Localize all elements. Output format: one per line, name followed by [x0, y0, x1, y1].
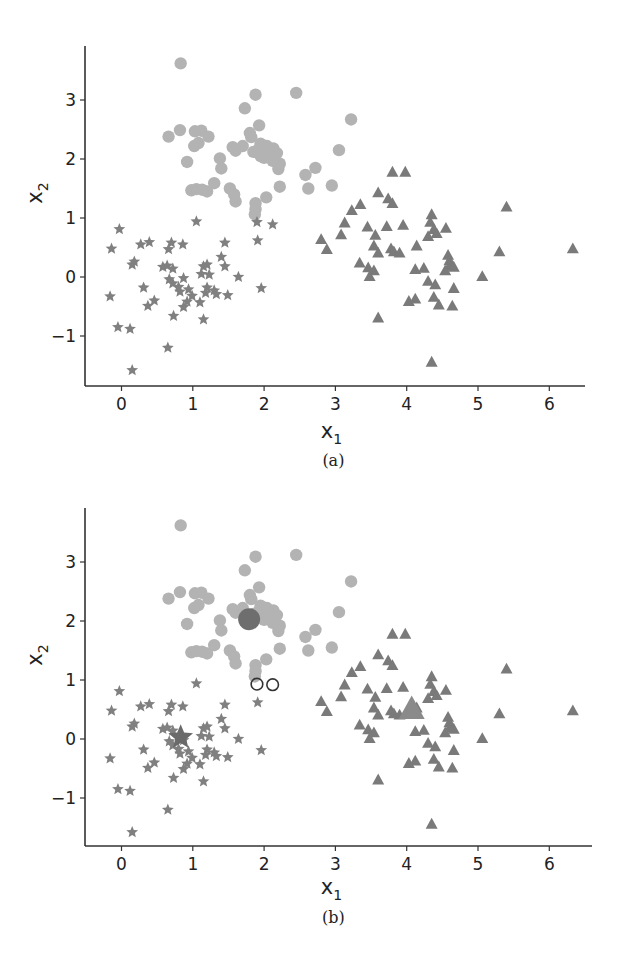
- circle-marker: [261, 602, 273, 614]
- scatter-plot-b: 0123456−10123x1x2(b): [0, 462, 626, 959]
- circle-marker: [192, 599, 204, 611]
- triangle-marker: [399, 166, 411, 177]
- circle-marker: [260, 191, 272, 203]
- star-marker: [233, 733, 245, 744]
- x-tick-label: 0: [116, 854, 127, 874]
- circle-marker: [192, 137, 204, 149]
- star-marker: [177, 238, 189, 249]
- series-cluster-circles: [162, 519, 357, 682]
- star-marker: [124, 323, 136, 334]
- triangle-marker: [361, 221, 373, 232]
- y-tick-label: 3: [65, 552, 76, 572]
- scatter-plot-a: 0123456−10123x1x2(a): [0, 0, 626, 470]
- triangle-marker: [399, 628, 411, 639]
- y-axis-label: x2: [23, 644, 51, 665]
- circle-marker: [162, 592, 174, 604]
- triangle-marker: [446, 300, 458, 311]
- triangle-marker: [354, 660, 366, 671]
- triangle-marker: [335, 690, 347, 701]
- circle-marker: [162, 130, 174, 142]
- circle-marker: [261, 140, 273, 152]
- circle-marker: [302, 644, 314, 656]
- circle-marker: [181, 618, 193, 630]
- star-marker: [222, 751, 234, 762]
- series-cluster-triangles: [315, 166, 579, 367]
- star-marker: [198, 775, 210, 786]
- triangle-marker: [476, 732, 488, 743]
- y-tick-label: −1: [51, 788, 76, 808]
- star-marker: [215, 251, 227, 262]
- x-tick-label: 1: [187, 854, 198, 874]
- circle-marker: [260, 653, 272, 665]
- star-marker: [168, 772, 180, 783]
- triangle-marker: [354, 257, 366, 268]
- star-marker: [135, 700, 147, 711]
- triangle-marker: [354, 719, 366, 730]
- star-marker: [138, 743, 150, 754]
- series-cluster-triangles: [315, 628, 579, 829]
- x-tick-label: 6: [544, 854, 555, 874]
- star-marker: [124, 785, 136, 796]
- star-marker: [190, 677, 202, 688]
- circle-marker: [290, 87, 302, 99]
- triangle-marker: [321, 705, 333, 716]
- x-axis-label: x1: [321, 875, 342, 903]
- triangle-marker: [372, 774, 384, 785]
- x-tick-label: 6: [544, 394, 555, 414]
- star-marker: [168, 310, 180, 321]
- triangle-marker: [397, 681, 409, 692]
- triangle-marker: [339, 217, 351, 228]
- x-tick-label: 2: [259, 854, 270, 874]
- triangle-marker: [346, 204, 358, 215]
- open-circle-marker: [267, 679, 279, 691]
- circle-marker: [174, 124, 186, 136]
- circle-marker: [249, 208, 261, 220]
- triangle-marker: [354, 198, 366, 209]
- star-marker: [267, 218, 279, 229]
- circle-marker: [266, 155, 278, 167]
- y-tick-label: 2: [65, 149, 76, 169]
- star-marker: [198, 313, 210, 324]
- triangle-marker: [426, 670, 438, 681]
- star-marker: [113, 685, 125, 696]
- circle-marker: [174, 57, 186, 69]
- star-marker: [219, 260, 231, 271]
- circle-marker: [309, 624, 321, 636]
- star-marker: [162, 804, 174, 815]
- triangle-marker: [372, 649, 384, 660]
- circle-marker: [309, 162, 321, 174]
- x-tick-label: 0: [116, 394, 127, 414]
- series-cluster-circles: [162, 57, 357, 220]
- circle-marker: [174, 519, 186, 531]
- triangle-marker: [381, 682, 393, 693]
- triangle-marker: [372, 187, 384, 198]
- star-marker: [135, 238, 147, 249]
- y-axis-label: x2: [23, 182, 51, 203]
- star-marker: [215, 713, 227, 724]
- x-axis-label: x1: [321, 419, 342, 447]
- star-marker: [233, 271, 245, 282]
- x-tick-label: 1: [187, 394, 198, 414]
- circle-marker: [253, 119, 265, 131]
- star-marker: [194, 758, 206, 769]
- y-tick-label: 1: [65, 208, 76, 228]
- y-tick-label: 1: [65, 670, 76, 690]
- circle-marker: [345, 113, 357, 125]
- triangle-marker: [386, 166, 398, 177]
- scatter-panel-b: 0123456−10123x1x2(b): [0, 462, 626, 959]
- star-marker: [178, 272, 190, 283]
- axes: 0123456−10123x1x2(a): [23, 46, 585, 470]
- triangle-marker: [440, 684, 452, 695]
- star-marker: [166, 699, 178, 710]
- circle-marker: [174, 586, 186, 598]
- x-tick-label: 5: [473, 854, 484, 874]
- triangle-marker: [339, 679, 351, 690]
- circle-marker: [249, 88, 261, 100]
- star-marker: [112, 321, 124, 332]
- axes: 0123456−10123x1x2(b): [23, 508, 592, 927]
- star-marker: [219, 722, 231, 733]
- circle-marker: [215, 162, 227, 174]
- triangle-marker: [361, 683, 373, 694]
- series-cluster-stars: [104, 677, 267, 837]
- star-marker: [219, 699, 231, 710]
